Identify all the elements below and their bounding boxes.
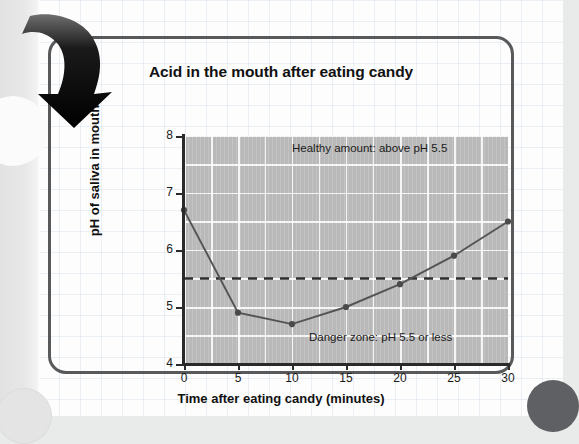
- y-tick-mark: [176, 136, 182, 138]
- y-tick-mark: [176, 250, 182, 252]
- x-tick-label: 0: [169, 371, 199, 385]
- x-tick-mark: [454, 364, 456, 370]
- x-tick-label: 15: [331, 371, 361, 385]
- x-tick-label: 20: [385, 371, 415, 385]
- y-tick-mark: [176, 364, 182, 366]
- x-tick-mark: [508, 364, 510, 370]
- y-tick-mark: [176, 307, 182, 309]
- x-tick-mark: [184, 364, 186, 370]
- x-tick-mark: [346, 364, 348, 370]
- curved-down-arrow-icon: [8, 6, 118, 131]
- x-tick-label: 30: [493, 371, 523, 385]
- y-tick-mark: [176, 193, 182, 195]
- x-tick-mark: [238, 364, 240, 370]
- x-tick-mark: [400, 364, 402, 370]
- x-axis-tick-labels: 051015202530: [51, 39, 511, 371]
- decorative-circle-bottom-right: [527, 380, 579, 432]
- healthy-zone-label: Healthy amount: above pH 5.5: [292, 142, 447, 154]
- decorative-circle-bottom-left: [0, 388, 52, 444]
- danger-zone-label: Danger zone: pH 5.5 or less: [309, 331, 452, 343]
- x-axis-title: Time after eating candy (minutes): [51, 391, 511, 406]
- x-tick-label: 25: [439, 371, 469, 385]
- x-tick-mark: [292, 364, 294, 370]
- x-tick-label: 5: [223, 371, 253, 385]
- x-tick-label: 10: [277, 371, 307, 385]
